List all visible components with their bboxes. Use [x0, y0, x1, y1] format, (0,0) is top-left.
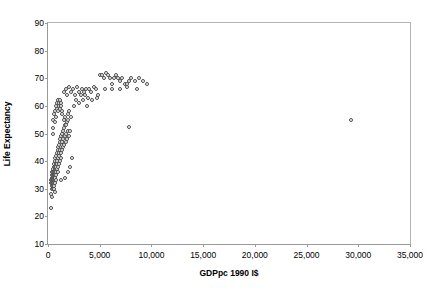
- data-point: [63, 176, 67, 180]
- y-axis-tick-mark: [45, 23, 48, 24]
- data-point: [103, 87, 107, 91]
- data-point: [65, 93, 69, 97]
- y-axis-tick-mark: [45, 51, 48, 52]
- x-axis-tick-label: 0: [46, 251, 51, 260]
- data-point: [118, 87, 122, 91]
- x-axis-tick-mark: [100, 244, 101, 247]
- data-point: [67, 109, 71, 113]
- data-point: [64, 123, 68, 127]
- data-point: [102, 76, 106, 80]
- data-point: [133, 79, 137, 83]
- y-axis-tick-label: 30: [35, 185, 44, 194]
- data-point: [53, 190, 57, 194]
- x-axis-tick-label: 5,000: [89, 251, 110, 260]
- data-point: [70, 156, 74, 160]
- x-axis-tick-label: 30,000: [345, 251, 371, 260]
- y-axis-tick-mark: [45, 134, 48, 135]
- x-axis-tick-mark: [255, 244, 256, 247]
- y-axis-title: Life Expectancy: [0, 22, 14, 245]
- data-point: [135, 87, 139, 91]
- data-point: [51, 126, 55, 130]
- data-point: [90, 98, 94, 102]
- x-axis-tick-label: 25,000: [294, 251, 320, 260]
- y-axis-tick-mark: [45, 189, 48, 190]
- data-point: [127, 125, 131, 129]
- data-point: [54, 115, 58, 119]
- y-axis-tick-label: 70: [35, 74, 44, 83]
- y-axis-tick-label: 90: [35, 19, 44, 28]
- y-axis-tick-label: 60: [35, 102, 44, 111]
- y-axis-tick-label: 80: [35, 46, 44, 55]
- data-point: [51, 132, 55, 136]
- data-point: [85, 104, 89, 108]
- data-point: [68, 165, 72, 169]
- data-point: [73, 93, 77, 97]
- data-point: [120, 76, 124, 80]
- data-point: [95, 96, 99, 100]
- data-point: [145, 82, 149, 86]
- data-point: [56, 170, 60, 174]
- x-axis-title: GDPpc 1990 I$: [47, 268, 411, 278]
- y-axis-tick-label: 20: [35, 212, 44, 221]
- data-point: [71, 87, 75, 91]
- data-point: [49, 206, 53, 210]
- x-axis-tick-mark: [151, 244, 152, 247]
- data-point: [81, 98, 85, 102]
- x-axis-tick-mark: [410, 244, 411, 247]
- data-point: [68, 129, 72, 133]
- x-axis-tick-mark: [358, 244, 359, 247]
- y-axis-tick-mark: [45, 106, 48, 107]
- y-axis-tick-label: 10: [35, 240, 44, 249]
- y-axis-tick-mark: [45, 216, 48, 217]
- data-point: [94, 87, 98, 91]
- data-point: [89, 90, 93, 94]
- y-axis-tick-label: 40: [35, 157, 44, 166]
- data-point: [67, 134, 71, 138]
- x-axis-tick-mark: [48, 244, 49, 247]
- plot-area: 10203040506070809005,00010,00015,00020,0…: [47, 22, 411, 245]
- x-axis-tick-label: 35,000: [397, 251, 423, 260]
- y-axis-tick-label: 50: [35, 129, 44, 138]
- data-point: [125, 85, 129, 89]
- x-axis-tick-label: 15,000: [190, 251, 216, 260]
- x-axis-tick-label: 10,000: [138, 251, 164, 260]
- data-point: [54, 178, 58, 182]
- x-axis-tick-mark: [307, 244, 308, 247]
- data-point: [59, 156, 63, 160]
- data-point: [72, 104, 76, 108]
- data-point: [69, 115, 73, 119]
- data-point: [66, 170, 70, 174]
- data-point: [50, 195, 54, 199]
- y-axis-tick-mark: [45, 161, 48, 162]
- x-axis-tick-label: 20,000: [242, 251, 268, 260]
- data-point: [53, 120, 57, 124]
- data-point: [75, 85, 79, 89]
- data-point: [349, 118, 353, 122]
- data-point: [77, 101, 81, 105]
- data-point: [110, 87, 114, 91]
- data-point: [110, 82, 114, 86]
- scatter-chart: Life Expectancy 10203040506070809005,000…: [0, 0, 428, 291]
- x-axis-tick-mark: [203, 244, 204, 247]
- y-axis-tick-mark: [45, 78, 48, 79]
